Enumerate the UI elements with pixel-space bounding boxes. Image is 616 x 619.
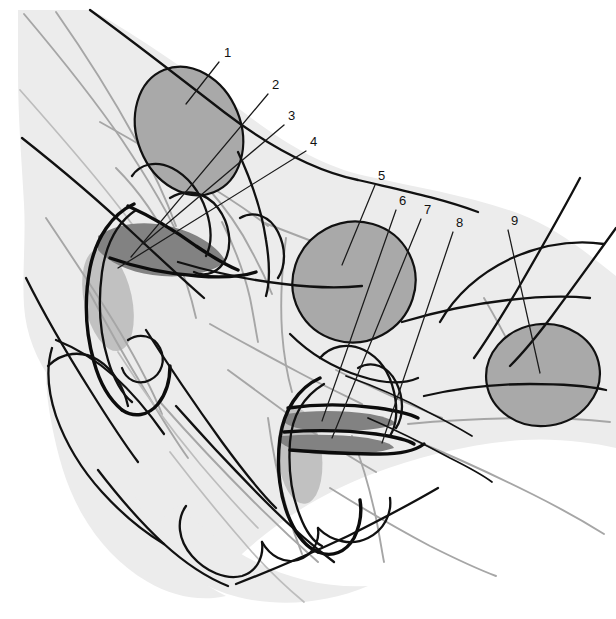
label-6: 6: [399, 193, 406, 208]
figure-root: 1 2 3 4 5 6 7 8 9: [0, 0, 616, 619]
label-1: 1: [224, 45, 231, 60]
label-2: 2: [272, 77, 279, 92]
label-8: 8: [456, 215, 463, 230]
anatomical-diagram-svg: 1 2 3 4 5 6 7 8 9: [0, 0, 616, 619]
label-9: 9: [511, 213, 518, 228]
label-3: 3: [288, 108, 295, 123]
label-7: 7: [424, 202, 431, 217]
label-5: 5: [378, 168, 385, 183]
label-4: 4: [310, 134, 317, 149]
